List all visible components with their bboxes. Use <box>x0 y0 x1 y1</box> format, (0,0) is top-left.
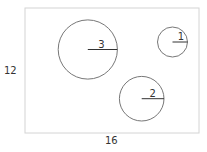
rectangle-height-label: 12 <box>4 65 17 76</box>
circle-label: 3 <box>98 39 104 50</box>
diagram-canvas: 12 16 1 2 3 <box>0 0 207 152</box>
circle-label: 2 <box>150 88 156 99</box>
circle-label: 1 <box>178 31 184 42</box>
rectangle-width-label: 16 <box>105 135 118 146</box>
circle-2: 2 <box>119 76 164 121</box>
circle-3: 3 <box>58 20 117 79</box>
circle-1: 1 <box>158 27 188 57</box>
